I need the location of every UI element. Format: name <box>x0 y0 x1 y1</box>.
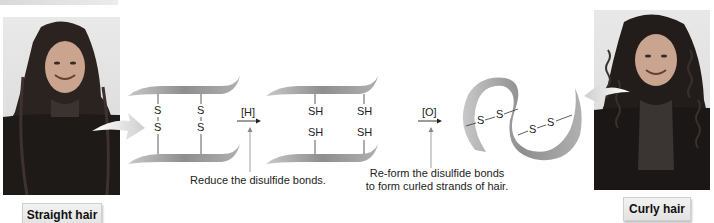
sulfur-atom-1b: S <box>154 121 161 133</box>
reagent-oxidation: [O] <box>422 106 437 118</box>
curl-sulfur-1a: S <box>477 114 484 126</box>
thiol-group-1b: SH <box>308 126 323 138</box>
reform-caption-line1: Re-form the disulfide bonds <box>362 167 512 180</box>
reform-caption-line2: to form curled strands of hair. <box>362 180 512 193</box>
curl-sulfur-1b: S <box>496 108 503 120</box>
thiol-group-2a: SH <box>357 105 372 117</box>
reagent-reduction: [H] <box>241 106 255 118</box>
sulfur-atom-2a: S <box>197 104 204 116</box>
thiol-group-1a: SH <box>308 105 323 117</box>
reform-step-caption: Re-form the disulfide bonds to form curl… <box>362 167 512 193</box>
reaction-arrow-oxidize <box>418 119 442 169</box>
reaction-arrow-reduce <box>237 119 261 173</box>
curved-arrow-right <box>584 82 630 106</box>
sulfur-atom-1a: S <box>154 104 161 116</box>
curved-arrow-left <box>92 113 145 140</box>
straight-strands-disulfide <box>128 76 240 164</box>
reduce-caption-text: Reduce the disulfide bonds. <box>190 174 326 186</box>
curl-sulfur-2a: S <box>529 123 536 135</box>
curl-sulfur-2b: S <box>547 116 554 128</box>
thiol-group-2b: SH <box>357 126 372 138</box>
straight-strands-thiol <box>266 76 378 164</box>
reduce-step-caption: Reduce the disulfide bonds. <box>188 174 328 187</box>
sulfur-atom-2b: S <box>197 121 204 133</box>
